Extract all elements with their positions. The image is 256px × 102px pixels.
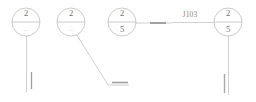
schematic-drawing: 2 – 2 – 2 5 J103 (0, 0, 256, 102)
node-4-bottom-label: 5 (226, 24, 230, 34)
node-2-bottom-label: – (68, 26, 73, 34)
node-3-bottom-label: 5 (120, 24, 124, 34)
node-3-top-label: 2 (120, 8, 124, 18)
node-2-top-label: 2 (69, 8, 73, 18)
node-2-group[interactable]: 2 – (57, 8, 85, 36)
node-1-top-label: 2 (24, 8, 28, 18)
node-3-group[interactable]: 2 5 (108, 8, 136, 36)
node-4-top-label: 2 (226, 8, 230, 18)
lead-node-2-diagonal (77, 35, 109, 86)
node-4-group[interactable]: 2 5 (214, 8, 242, 36)
node-1-group[interactable]: 2 – (12, 8, 40, 36)
schematic-canvas: 2 – 2 – 2 5 J103 (0, 0, 256, 102)
node-1-bottom-label: – (23, 26, 28, 34)
wire-label-j103: J103 (183, 10, 198, 19)
